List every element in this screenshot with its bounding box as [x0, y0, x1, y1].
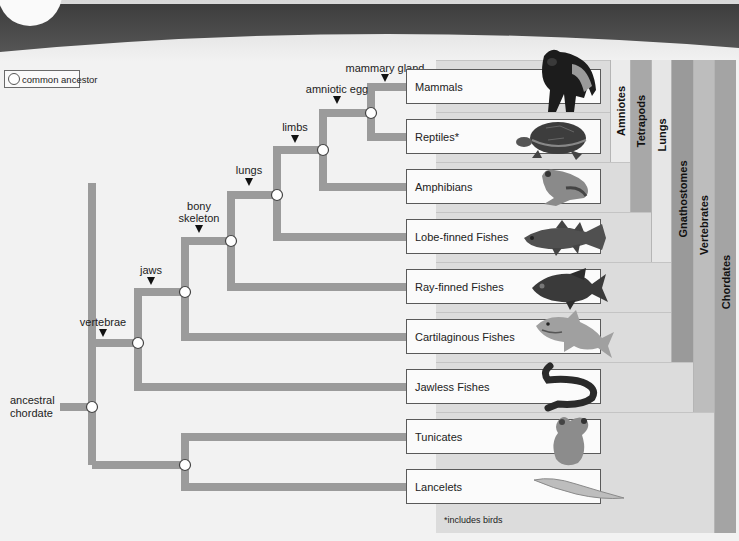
marker-lungs-icon	[245, 178, 253, 186]
trait-vertebrae: vertebrae	[80, 316, 126, 328]
taxon-label: Reptiles*	[415, 131, 459, 143]
trait-bony-skeleton: bony skeleton	[179, 200, 220, 224]
marker-jaws-icon	[147, 277, 155, 285]
taxon-label: Lobe-finned Fishes	[415, 231, 509, 243]
node-tetrapods-icon	[318, 145, 329, 156]
trait-bony-skeleton-line2: skeleton	[179, 212, 220, 224]
lancelet-icon	[532, 476, 626, 502]
root-label: ancestral chordate	[10, 394, 55, 420]
footnote: *includes birds	[444, 515, 503, 525]
phylogenetic-tree	[0, 0, 739, 541]
marker-bony-skeleton-icon	[195, 225, 203, 233]
taxon-label: Jawless Fishes	[415, 381, 490, 393]
trait-jaws: jaws	[140, 264, 162, 276]
gorilla-icon	[530, 46, 602, 114]
marker-vertebrae-icon	[99, 329, 107, 337]
marker-mammary-gland-icon	[381, 74, 389, 82]
node-gnathostomes-icon	[180, 287, 191, 298]
node-chordates-icon	[87, 402, 98, 413]
taxon-label: Ray-finned Fishes	[415, 281, 504, 293]
lamprey-icon	[538, 362, 604, 412]
taxon-label: Lancelets	[415, 481, 462, 493]
root-label-line2: chordate	[10, 407, 55, 420]
frog-icon	[536, 166, 592, 208]
tunicate-icon	[548, 413, 594, 469]
taxon-label: Amphibians	[415, 181, 472, 193]
turtle-icon	[516, 118, 590, 162]
trait-bony-skeleton-line1: bony	[179, 200, 220, 212]
root-label-line1: ancestral	[10, 394, 55, 407]
cladogram-figure: Amniotes Tetrapods Lungs Gnathostomes Ve…	[0, 0, 739, 541]
trait-lungs: lungs	[236, 164, 262, 176]
common-ancestor-circle-icon	[8, 73, 20, 85]
ray-finned-fish-icon	[530, 266, 610, 310]
marker-amniotic-egg-icon	[333, 96, 341, 104]
legend-label: common ancestor	[22, 74, 98, 85]
node-amniotes-icon	[366, 108, 377, 119]
trait-limbs: limbs	[282, 121, 308, 133]
node-tunicate-lancelet-icon	[180, 460, 191, 471]
node-lungs-icon	[272, 190, 283, 201]
legend-box: common ancestor	[4, 70, 80, 88]
taxon-label: Cartilaginous Fishes	[415, 331, 515, 343]
node-osteichthyes-icon	[226, 236, 237, 247]
taxon-label: Mammals	[415, 81, 463, 93]
marker-limbs-icon	[291, 135, 299, 143]
coelacanth-icon	[522, 218, 610, 258]
taxon-label: Tunicates	[415, 431, 462, 443]
shark-icon	[534, 310, 616, 362]
trait-amniotic-egg: amniotic egg	[306, 83, 368, 95]
node-vertebrates-icon	[133, 338, 144, 349]
